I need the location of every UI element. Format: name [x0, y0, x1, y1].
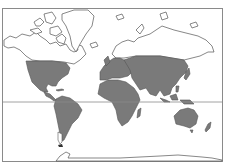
- world-map: [0, 0, 226, 166]
